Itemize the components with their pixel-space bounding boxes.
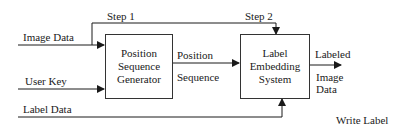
image-data-label: Image Data xyxy=(23,31,74,43)
data-label: Data xyxy=(316,83,337,95)
label-embedding-system-block: Label Embedding System xyxy=(240,34,310,99)
position-label: Position xyxy=(177,49,213,61)
step1-label: Step 1 xyxy=(107,10,135,22)
labeled-label: Labeled xyxy=(315,48,350,60)
label-data-label: Label Data xyxy=(23,103,72,115)
block-line: Position xyxy=(121,47,157,60)
block-line: Embedding xyxy=(250,60,301,73)
block-line: Sequence xyxy=(118,60,160,73)
user-key-label: User Key xyxy=(25,75,67,87)
image-label: Image xyxy=(316,71,343,83)
position-sequence-generator-block: Position Sequence Generator xyxy=(105,34,173,99)
block-line: Label xyxy=(262,47,287,60)
block-line: Generator xyxy=(117,73,161,86)
caption: Write Label xyxy=(336,114,388,126)
step2-label: Step 2 xyxy=(245,10,273,22)
block-line: System xyxy=(259,73,291,86)
sequence-label: Sequence xyxy=(177,71,219,83)
